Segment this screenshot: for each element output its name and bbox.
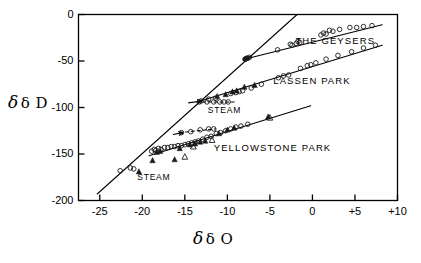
point-the-geysers: [354, 25, 359, 30]
point-yellowstone-park-filled-triangles: [172, 157, 177, 162]
point-yellowstone-steam: [206, 127, 211, 132]
point-the-geysers: [337, 27, 342, 32]
x-axis-title-text: δ O: [206, 230, 234, 248]
point-lassen-park: [336, 53, 341, 58]
x-tick-label-5: 0: [292, 205, 332, 217]
point-yellowstone-steam: [198, 128, 203, 133]
lassen-park-trend: [200, 45, 382, 101]
isotope-scatter-figure: δδ D δδ O -25-20-15-10-50+5+100-50-100-1…: [0, 0, 421, 263]
delta-glyph-y: δ: [8, 92, 21, 112]
x-tick-label-7: +10: [378, 205, 418, 217]
point-yellowstone-park: [118, 168, 123, 173]
y-tick-label-3: -150: [30, 147, 74, 159]
point-the-geysers: [348, 25, 353, 30]
delta-glyph-x: δ: [193, 228, 206, 248]
x-tick-label-1: -20: [122, 205, 162, 217]
series-annotation-2: YELLOWSTONE PARK: [214, 142, 332, 153]
steam-annotation-3: STEAM: [208, 105, 241, 115]
y-tick-label-1: -50: [30, 54, 74, 66]
y-tick-label-4: -200: [30, 194, 74, 206]
x-tick-label-4: -5: [250, 205, 290, 217]
x-tick-label-3: -10: [207, 205, 247, 217]
steam-annotation-4: STEAM: [137, 172, 170, 182]
x-tick-label-2: -15: [165, 205, 205, 217]
x-axis-title: δδ O: [193, 228, 233, 248]
x-tick-label-6: +5: [335, 205, 375, 217]
point-the-geysers: [361, 24, 366, 29]
point-yellowstone-park-open-triangles: [182, 154, 188, 160]
y-tick-label-2: -100: [30, 101, 74, 113]
point-lassen-park: [324, 57, 329, 62]
series-annotation-0: THE GEYSERS: [295, 35, 375, 46]
point-yellowstone-park-filled-triangles: [150, 158, 155, 163]
y-tick-label-0: 0: [30, 8, 74, 20]
series-annotation-1: LASSEN PARK: [273, 75, 350, 86]
point-lassen-park: [349, 49, 354, 54]
meteoric-water-line: [97, 15, 297, 194]
x-tick-label-0: -25: [80, 205, 120, 217]
point-meteoric-line-cluster: [245, 56, 250, 61]
point-lassen-park: [314, 61, 319, 66]
point-the-geysers: [275, 48, 280, 53]
